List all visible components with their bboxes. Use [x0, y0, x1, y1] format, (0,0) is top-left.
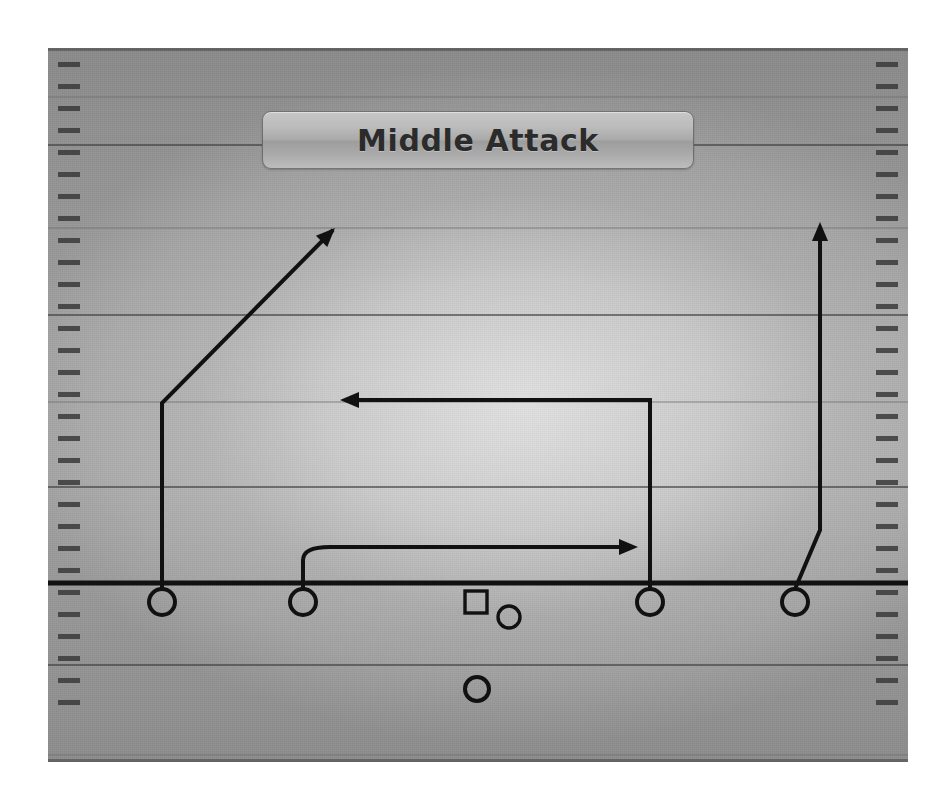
left-outside-diagonal-route	[162, 230, 333, 589]
players-group	[149, 589, 808, 701]
player-outside-hitter-left[interactable]	[149, 589, 175, 615]
player-right-side-hitter[interactable]	[782, 589, 808, 615]
right-side-vertical-route-arrowhead	[812, 222, 828, 241]
setter-curl-route-arrowhead	[619, 539, 638, 555]
player-libero-small[interactable]	[498, 606, 520, 628]
opposite-hitter-deep-cross-route-arrowhead	[340, 392, 359, 408]
play-diagram-root: Middle Attack	[0, 0, 952, 805]
player-opposite-hitter[interactable]	[637, 589, 663, 615]
play-title-plate[interactable]: Middle Attack	[262, 111, 694, 169]
player-setter-front-left[interactable]	[290, 589, 316, 615]
play-title-text: Middle Attack	[357, 123, 599, 158]
opposite-hitter-deep-cross-route	[348, 400, 650, 589]
routes-group	[162, 222, 828, 589]
right-side-vertical-route	[795, 235, 820, 589]
player-middle-blocker-box[interactable]	[465, 591, 487, 613]
player-back-row-defender[interactable]	[465, 677, 489, 701]
